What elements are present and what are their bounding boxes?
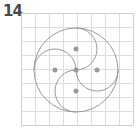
dot-left [53,68,58,73]
pinwheel-diagram [0,0,140,131]
dot-center [74,68,79,73]
arc-left [34,49,76,70]
arc-top [76,28,97,70]
arc-bottom [55,70,76,112]
dot-bottom [74,89,79,94]
arc-right [76,70,118,91]
dot-top [74,47,79,52]
dot-right [95,68,100,73]
